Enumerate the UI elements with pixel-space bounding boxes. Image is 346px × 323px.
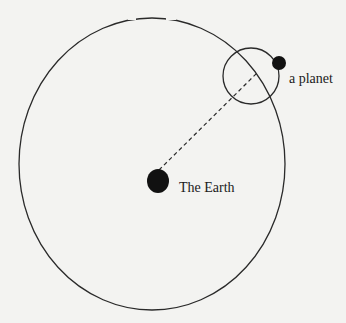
earth-label: The Earth — [179, 180, 235, 195]
top-gap — [166, 15, 176, 20]
dashed-radius-line — [159, 72, 258, 170]
geocentric-orbit-diagram: a planet The Earth — [0, 0, 346, 323]
planet-label: a planet — [289, 71, 333, 86]
earth-dot — [147, 169, 169, 193]
planet-dot — [272, 56, 286, 70]
epicycle-circle — [223, 48, 279, 104]
top-gap — [128, 15, 136, 20]
deferent-circle — [19, 18, 285, 310]
